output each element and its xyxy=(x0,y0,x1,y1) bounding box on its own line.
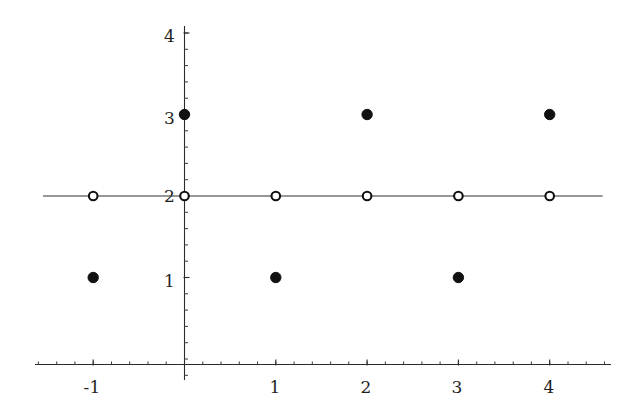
filled-circle-point xyxy=(453,272,463,282)
y-tick-label-3: 3 xyxy=(164,108,175,128)
filled-circle-point xyxy=(545,109,555,119)
y-tick-label-2: 2 xyxy=(164,186,175,206)
x-tick-label-1: 1 xyxy=(269,377,280,397)
x-tick-label-3: 3 xyxy=(451,377,462,397)
open-circle-point xyxy=(89,192,98,201)
y-tick-label-4: 4 xyxy=(164,26,175,46)
plot-canvas: -1 1 2 3 4 1 2 3 4 xyxy=(0,0,643,411)
filled-circle-point xyxy=(179,109,189,119)
y-tick-labels: 1 2 3 4 xyxy=(164,26,175,291)
filled-circle-point xyxy=(362,109,372,119)
filled-circle-point xyxy=(271,272,281,282)
filled-circle-point xyxy=(88,272,98,282)
open-circle-point xyxy=(454,192,463,201)
scatter-plot-figure: -1 1 2 3 4 1 2 3 4 xyxy=(0,0,643,411)
x-tick-label-2: 2 xyxy=(360,377,371,397)
y-tick-label-1: 1 xyxy=(164,271,175,291)
x-tick-label-4: 4 xyxy=(543,377,554,397)
open-circle-point xyxy=(272,192,281,201)
x-tick-labels: -1 1 2 3 4 xyxy=(84,377,555,397)
x-tick-label-neg1: -1 xyxy=(84,377,101,397)
open-circle-point xyxy=(545,192,554,201)
open-circle-point xyxy=(180,192,189,201)
open-circle-point xyxy=(363,192,372,201)
